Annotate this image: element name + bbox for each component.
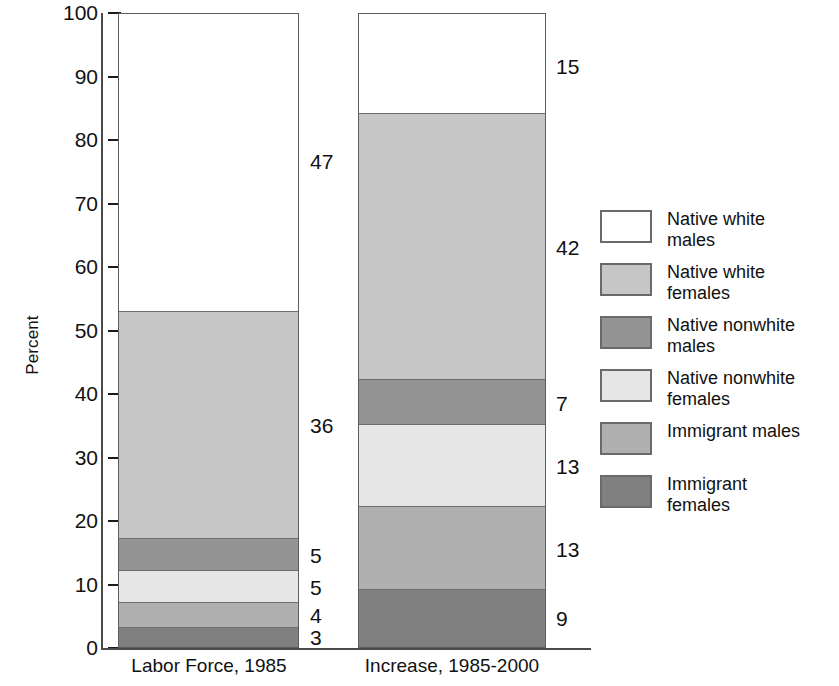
legend-swatch-icon: [600, 475, 652, 508]
segment-value-label: 47: [310, 151, 333, 172]
legend-item-native-nonwhite-males[interactable]: Native nonwhitemales: [600, 314, 839, 354]
legend-label-line1: Immigrant: [667, 474, 747, 495]
legend-label: Native whitefemales: [667, 261, 765, 304]
chart-legend: Native whitemalesNative whitefemalesNati…: [600, 208, 839, 526]
legend-swatch-icon: [600, 316, 652, 349]
legend-swatch-icon: [600, 369, 652, 402]
legend-swatch-icon: [600, 210, 652, 243]
bar-segment-immigrant-females[interactable]: [119, 628, 298, 647]
segment-value-label: 5: [310, 577, 322, 598]
segment-value-label: 42: [556, 237, 579, 258]
stacked-bar-1[interactable]: [118, 13, 299, 648]
legend-item-native-nonwhite-females[interactable]: Native nonwhitefemales: [600, 367, 839, 407]
segment-value-label: 5: [310, 545, 322, 566]
legend-label-line2: females: [667, 495, 747, 516]
legend-label-line1: Native white: [667, 262, 765, 283]
bar-segment-native-white-females[interactable]: [119, 312, 298, 540]
bar-segment-native-nonwhite-females[interactable]: [119, 571, 298, 603]
bar-segment-native-white-males[interactable]: [119, 14, 298, 312]
legend-label-line1: Immigrant males: [667, 421, 800, 442]
legend-label-line1: Native nonwhite: [667, 368, 795, 389]
legend-item-immigrant-females[interactable]: Immigrantfemales: [600, 473, 839, 513]
legend-label-line1: Native nonwhite: [667, 315, 795, 336]
legend-label: Native nonwhitefemales: [667, 367, 795, 410]
bar-segment-immigrant-males[interactable]: [359, 507, 545, 590]
legend-label: Native nonwhitemales: [667, 314, 795, 357]
segment-value-label: 3: [310, 627, 322, 648]
segment-value-label: 9: [556, 608, 568, 629]
legend-item-native-white-males[interactable]: Native whitemales: [600, 208, 839, 248]
stacked-bar-2[interactable]: [358, 13, 546, 648]
bar-segment-immigrant-females[interactable]: [359, 590, 545, 647]
legend-label-line2: males: [667, 230, 765, 251]
x-axis-label-1: Labor Force, 1985: [89, 656, 329, 675]
legend-label: Immigrant males: [667, 420, 800, 442]
bar-segment-native-nonwhite-females[interactable]: [359, 425, 545, 508]
chart-root: Percent 1009080706050403020100 34553647L…: [0, 0, 839, 686]
segment-value-label: 15: [556, 56, 579, 77]
segment-value-label: 36: [310, 415, 333, 436]
legend-label-line2: females: [667, 283, 765, 304]
legend-item-native-white-females[interactable]: Native whitefemales: [600, 261, 839, 301]
segment-value-label: 4: [310, 605, 322, 626]
legend-label-line1: Native white: [667, 209, 765, 230]
legend-label-line2: females: [667, 389, 795, 410]
legend-swatch-icon: [600, 422, 652, 455]
legend-label-line2: males: [667, 336, 795, 357]
bar-segment-native-nonwhite-males[interactable]: [119, 539, 298, 571]
bar-segment-native-white-females[interactable]: [359, 114, 545, 381]
bar-segment-native-nonwhite-males[interactable]: [359, 380, 545, 424]
legend-item-immigrant-males[interactable]: Immigrant males: [600, 420, 839, 460]
legend-swatch-icon: [600, 263, 652, 296]
bar-segment-native-white-males[interactable]: [359, 18, 545, 113]
x-axis-label-2: Increase, 1985-2000: [332, 656, 572, 675]
segment-value-label: 7: [556, 393, 568, 414]
legend-label: Immigrantfemales: [667, 473, 747, 516]
legend-label: Native whitemales: [667, 208, 765, 251]
segment-value-label: 13: [556, 539, 579, 560]
bar-segment-immigrant-males[interactable]: [119, 603, 298, 628]
segment-value-label: 13: [556, 456, 579, 477]
